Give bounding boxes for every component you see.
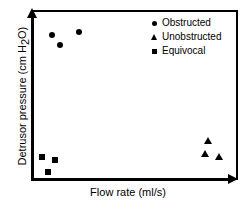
- scatter-plot-figure: ObstructedUnobstructedEquivocal Detrusor…: [0, 0, 252, 206]
- data-point-square: [52, 157, 58, 163]
- legend-item-label: Unobstructed: [160, 31, 221, 43]
- data-point-circle: [76, 29, 82, 35]
- legend-item-obstructed: Obstructed: [148, 16, 234, 30]
- square-marker-icon: [148, 49, 160, 54]
- data-point-square: [39, 154, 45, 160]
- data-point-circle: [57, 42, 63, 48]
- y-axis-title: Detrusor pressure (cm H2O): [16, 11, 32, 181]
- data-point-triangle: [215, 153, 223, 160]
- legend-item-label: Equivocal: [160, 45, 205, 57]
- circle-marker-icon: [148, 21, 160, 26]
- plot-frame-top-border: [33, 10, 238, 12]
- plot-frame-right-border: [236, 10, 238, 180]
- data-point-triangle: [204, 137, 212, 144]
- data-point-triangle: [201, 150, 209, 157]
- legend-item-label: Obstructed: [160, 17, 211, 29]
- data-point-square: [45, 169, 51, 175]
- triangle-marker-icon: [148, 34, 160, 40]
- y-axis-title-tail: O): [16, 27, 28, 39]
- legend-item-equivocal: Equivocal: [148, 44, 234, 58]
- x-axis-title: Flow rate (ml/s): [33, 186, 223, 199]
- y-axis-title-subscript: 2: [19, 39, 31, 45]
- chart-legend: ObstructedUnobstructedEquivocal: [148, 16, 234, 58]
- legend-item-unobstructed: Unobstructed: [148, 30, 234, 44]
- data-point-circle: [49, 32, 55, 38]
- x-axis-arrow-icon: [228, 174, 238, 184]
- y-axis-title-main: Detrusor pressure (cm H: [16, 45, 28, 165]
- x-axis-line: [31, 178, 230, 181]
